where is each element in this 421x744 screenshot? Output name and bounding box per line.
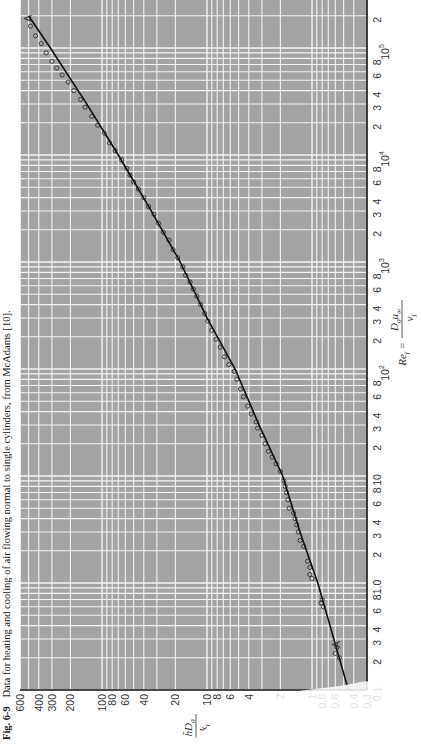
nu-tick-label: 60 [119,694,131,706]
heat-transfer-chart: 0.30.40.60.81246810204060801002003004006… [0,0,421,744]
curve-label-a-high: A [22,15,34,22]
re-tick-label: 1.0 [371,580,383,595]
re-tick-label: 3 [371,212,383,218]
re-tick-label: 6 [371,394,383,400]
nu-tick-label: 300 [46,694,58,712]
nu-tick-label: 200 [64,694,76,712]
re-tick-label: 2 [371,659,383,665]
re-tick-label: 3 [371,640,383,646]
re-tick-label: 2 [371,231,383,237]
re-tick-label: 3 [371,319,383,325]
re-tick-label: 2 [371,124,383,130]
re-tick-label: 2 [371,445,383,451]
re-tick-label: 3 [371,105,383,111]
figure-caption: Fig. 6-9 Data for heating and cooling of… [1,310,12,740]
re-tick-label: 6 [371,608,383,614]
re-tick-label: 4 [371,306,383,312]
re-tick-label: 6 [371,180,383,186]
re-tick-label: 6 [371,287,383,293]
re-tick-label: 8 [371,487,383,493]
re-tick-label: 3 [371,426,383,432]
re-tick-label: 4 [371,92,383,98]
figure-caption-text: Data for heating and cooling of air flow… [1,310,12,697]
re-tick-label: 3 [371,533,383,539]
re-tick-label: 6 [371,73,383,79]
re-tick-label: 6 [371,501,383,507]
re-tick-label: 4 [371,413,383,419]
re-tick-label: 4 [371,199,383,205]
re-tick-label: 10 [371,474,383,486]
nu-tick-label: 40 [138,694,150,706]
re-tick-label: 2 [371,552,383,558]
figure-number: Fig. 6-9 [1,706,12,740]
re-tick-label: 2 [371,338,383,344]
nu-tick-label: 6 [224,694,236,700]
nu-tick-label: 4 [243,694,255,700]
re-tick-label: 4 [371,520,383,526]
curve-label-a-low: A [330,641,342,648]
nu-tick-label: 20 [169,694,181,706]
nu-tick-label: 600 [14,694,26,712]
nu-tick-label: 400 [33,694,45,712]
nu-tick-label: 100 [96,694,108,712]
nu-tick-label: 10 [201,694,213,706]
re-tick-label: 2 [371,17,383,23]
re-tick-label: 4 [371,627,383,633]
